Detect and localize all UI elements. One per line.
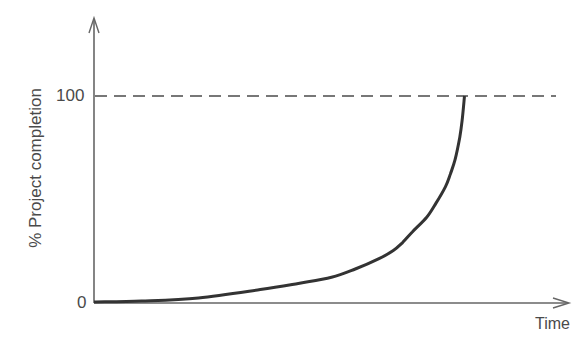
y-tick-0: 0 [77, 293, 86, 313]
completion-curve [94, 96, 465, 302]
chart-canvas [0, 0, 587, 352]
y-tick-100: 100 [56, 86, 84, 106]
y-axis-title: % Project completion [26, 88, 46, 248]
x-axis-title: Time [535, 315, 570, 333]
